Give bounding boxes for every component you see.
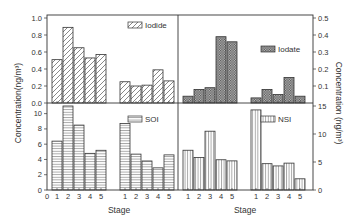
x-tick-label: 1: [123, 192, 127, 201]
bar-soi-g1-s1: [52, 141, 62, 190]
bar-nsi-g1-s2: [194, 158, 204, 190]
y-tick-label: 0: [318, 186, 322, 195]
y-tick-label: 10: [318, 130, 326, 139]
bar-iodate-g2-s2: [262, 89, 272, 103]
bar-iodide-g1-s1: [52, 60, 62, 103]
x-tick-label: 5: [167, 192, 171, 201]
y-tick-label: 2: [38, 170, 42, 179]
bar-soi-g1-s2: [63, 106, 73, 190]
x-tick-label: 1: [254, 192, 258, 201]
y-tick-label: 0.3: [318, 48, 328, 57]
y-tick-label: 0.2: [318, 65, 328, 74]
bar-iodide-g2-s3: [142, 85, 152, 103]
legend-swatch-soi: [128, 116, 142, 122]
x-tick-label: 3: [276, 192, 280, 201]
legend-label-soi: SOI: [145, 115, 159, 124]
chart-figure: 0.00.20.40.60.81.0Iodide0.10.20.30.40.5I…: [0, 0, 354, 224]
y-tick-label: 8: [38, 124, 42, 133]
y-tick-label: 1.0: [32, 14, 42, 23]
y-tick-label: 0.0: [32, 99, 42, 108]
bar-iodate-g1-s3: [205, 88, 215, 103]
y-tick-label: 0.5: [318, 14, 328, 23]
x-axis-label-right: Stage: [234, 205, 256, 215]
y-tick-label: 15: [318, 102, 326, 111]
y-tick-label: 0.4: [32, 65, 42, 74]
bar-iodide-g1-s3: [74, 48, 84, 103]
bar-soi-g1-s4: [85, 153, 95, 190]
right-y-axis-label: Concentration (ng/m³): [334, 62, 344, 145]
x-tick-label: 4: [156, 192, 160, 201]
bar-iodide-g2-s4: [153, 70, 163, 103]
x-tick-label: 5: [298, 192, 302, 201]
x-tick-label: 1: [55, 192, 59, 201]
bar-iodide-g2-s2: [131, 86, 141, 103]
bar-soi-g1-s3: [74, 125, 84, 190]
legend-swatch-iodate: [261, 46, 275, 52]
bar-nsi-g2-s4: [284, 163, 294, 190]
bar-iodate-g1-s4: [216, 37, 226, 103]
x-tick-label: 4: [287, 192, 291, 201]
bar-nsi-g1-s3: [205, 131, 215, 190]
x-tick-label: 1: [186, 192, 190, 201]
bar-soi-g2-s5: [164, 155, 174, 190]
y-tick-label: 0.4: [318, 31, 328, 40]
y-tick-label: 10: [34, 109, 42, 118]
x-tick-label: 2: [265, 192, 269, 201]
x-tick-label: 2: [66, 192, 70, 201]
x-tick-label: 0: [45, 192, 49, 201]
y-tick-label: 4: [38, 155, 42, 164]
bar-iodide-g1-s5: [96, 55, 106, 103]
legend-label-iodate: Iodate: [278, 45, 301, 54]
legend-label-iodide: Iodide: [145, 21, 167, 30]
bar-nsi-g1-s1: [183, 150, 193, 190]
x-tick-label: 4: [219, 192, 223, 201]
bar-soi-g2-s1: [120, 124, 130, 190]
bar-iodide-g1-s2: [63, 27, 73, 103]
bar-iodide-g2-s1: [120, 82, 130, 103]
x-axis-label-left: Stage: [108, 205, 130, 215]
bar-soi-g2-s3: [142, 161, 152, 190]
x-tick-label: 5: [99, 192, 103, 201]
bar-nsi-g2-s2: [262, 164, 272, 190]
x-tick-label: 2: [134, 192, 138, 201]
y-tick-label: 0.1: [318, 82, 328, 91]
plot-area: 0.00.20.40.60.81.0Iodide0.10.20.30.40.5I…: [32, 14, 329, 202]
x-tick-label: 3: [77, 192, 81, 201]
x-tick-label: 2: [197, 192, 201, 201]
y-tick-label: 0.8: [32, 31, 42, 40]
bar-nsi-g1-s4: [216, 160, 226, 190]
bar-iodate-g1-s2: [194, 89, 204, 103]
left-y-axis-label: Concentration(ng/m³): [13, 63, 23, 143]
bar-soi-g1-s5: [96, 150, 106, 190]
y-tick-label: 6: [38, 140, 42, 149]
bar-nsi-g1-s5: [227, 161, 237, 190]
legend-swatch-nsi: [261, 116, 275, 122]
bar-soi-g2-s4: [153, 168, 163, 190]
y-tick-label: 0.6: [32, 48, 42, 57]
x-tick-label: 4: [88, 192, 92, 201]
y-tick-label: 5: [318, 158, 322, 167]
legend-label-nsi: NSI: [278, 115, 291, 124]
x-tick-label: 3: [145, 192, 149, 201]
legend-swatch-iodide: [128, 22, 142, 28]
bar-iodate-g2-s4: [284, 78, 294, 104]
x-tick-label: 5: [230, 192, 234, 201]
bar-iodide-g2-s5: [164, 81, 174, 103]
y-tick-label: 0.2: [32, 82, 42, 91]
bar-soi-g2-s2: [131, 154, 141, 190]
y-tick-label: 0: [38, 186, 42, 195]
bar-nsi-g2-s3: [273, 166, 283, 190]
bar-iodate-g1-s5: [227, 42, 237, 103]
bar-nsi-g2-s1: [251, 110, 261, 190]
bar-iodide-g1-s4: [85, 58, 95, 103]
x-tick-label: 3: [208, 192, 212, 201]
